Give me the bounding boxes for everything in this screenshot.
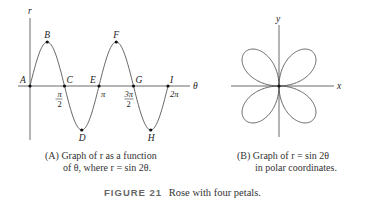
point-f bbox=[115, 40, 118, 43]
svg-text:π: π bbox=[101, 89, 106, 99]
point-label-e: E bbox=[89, 75, 96, 85]
figure-number: FIGURE 21 bbox=[104, 187, 162, 198]
theta-axis-label: θ bbox=[193, 81, 198, 91]
y-axis-label: y bbox=[275, 14, 281, 24]
point-d bbox=[80, 128, 83, 131]
caption-b-line2: in polar coordinates. bbox=[255, 162, 337, 174]
figure-title: Rose with four petals. bbox=[169, 187, 261, 198]
caption-a-line2: of θ, where r = sin 2θ. bbox=[63, 162, 151, 174]
point-label-a: A bbox=[19, 75, 26, 85]
point-label-g: G bbox=[136, 75, 143, 85]
point-e bbox=[97, 84, 100, 87]
panel-b-graph: x y bbox=[231, 14, 342, 137]
point-label-i: I bbox=[169, 75, 174, 85]
point-label-f: F bbox=[112, 30, 119, 40]
theta-tick-labels: π2π3π22π bbox=[56, 89, 180, 109]
panel-a-graph: r θ ABCDEFGHI π2π3π22π bbox=[18, 6, 198, 143]
svg-text:2π: 2π bbox=[170, 89, 179, 99]
figure-canvas: r θ ABCDEFGHI π2π3π22π x y bbox=[0, 0, 365, 209]
point-label-h: H bbox=[147, 133, 156, 143]
point-label-b: B bbox=[44, 30, 50, 40]
caption-b-line1: (B) Graph of r = sin 2θ bbox=[237, 150, 329, 162]
point-label-d: D bbox=[78, 133, 86, 143]
origin-point bbox=[277, 84, 280, 87]
svg-text:π: π bbox=[58, 89, 63, 99]
figure-caption: FIGURE 21 Rose with four petals. bbox=[0, 187, 365, 198]
r-axis-label: r bbox=[28, 6, 32, 16]
x-axis-label: x bbox=[336, 81, 342, 91]
svg-text:2: 2 bbox=[127, 99, 131, 109]
point-a bbox=[28, 84, 31, 87]
svg-text:3π: 3π bbox=[124, 89, 134, 99]
point-label-c: C bbox=[67, 75, 74, 85]
point-h bbox=[149, 128, 152, 131]
svg-text:2: 2 bbox=[58, 99, 62, 109]
caption-a-line1: (A) Graph of r as a function bbox=[45, 150, 157, 162]
point-b bbox=[46, 40, 49, 43]
